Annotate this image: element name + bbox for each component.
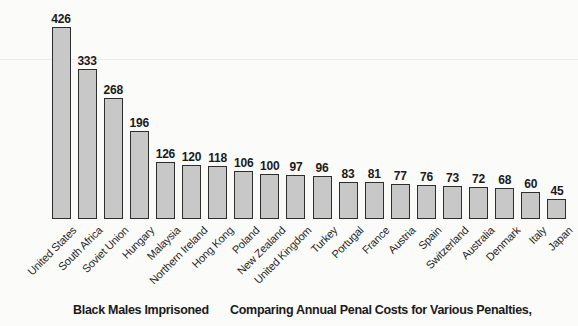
bar-new-zealand [260,174,279,219]
bar-switzerland [443,186,462,219]
bar-value-label: 196 [117,117,161,130]
bar-denmark [495,188,514,219]
imprisonment-bar-chart-figure: 426United States333South Africa268Soviet… [0,0,578,326]
bar-value-label: 426 [39,13,83,26]
bar-united-kingdom [286,175,305,219]
bar-poland [234,171,253,219]
adjacent-figure-caption: Comparing Annual Penal Costs for Various… [230,303,532,317]
bar-spain [417,185,436,219]
bar-value-label: 333 [65,55,109,68]
bar-value-label: 268 [91,84,135,97]
bar-malaysia [156,162,175,219]
chart-title: Black Males Imprisoned [73,303,209,317]
bar-australia [469,187,488,219]
bar-portugal [339,182,358,219]
bar-austria [391,184,410,219]
bar-hong-kong [208,166,227,219]
bar-japan [547,199,566,219]
bar-value-label: 45 [535,185,578,198]
chart-plot-area: 426United States333South Africa268Soviet… [0,0,578,326]
bar-northern-ireland [182,165,201,219]
bar-france [365,182,384,219]
bar-hungary [130,131,149,219]
bar-turkey [313,176,332,219]
